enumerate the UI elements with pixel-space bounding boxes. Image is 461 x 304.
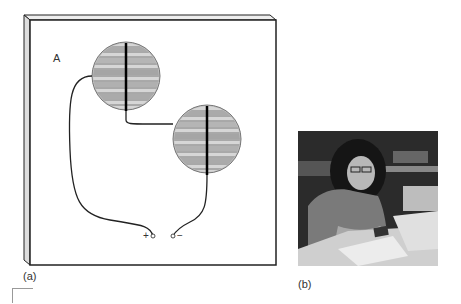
caption-b: (b) (298, 278, 311, 290)
board-label: A (53, 52, 60, 64)
solar-cell-board-diagram (0, 0, 290, 304)
terminal-positive-label: + (143, 230, 149, 241)
student-photo (298, 131, 438, 266)
terminal-negative-label: − (177, 230, 183, 241)
caption-a: (a) (23, 270, 36, 282)
corner-mark (12, 288, 33, 303)
